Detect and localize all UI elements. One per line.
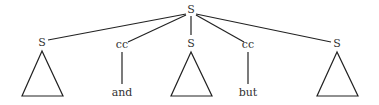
node-s3-label: S [333, 37, 341, 50]
triangle-s2 [171, 52, 212, 96]
root-node-label: S [187, 3, 195, 16]
syntax-tree: S S cc and S cc but S [0, 0, 379, 105]
node-s1-label: S [38, 36, 46, 49]
node-cc1-label: cc [116, 38, 128, 51]
triangle-s1 [22, 51, 63, 96]
node-s2-label: S [187, 37, 195, 50]
triangle-s3 [317, 52, 358, 96]
edge-root-s1 [48, 14, 186, 40]
terminal-but: but [239, 86, 258, 99]
terminal-and: and [112, 86, 133, 99]
node-cc2-label: cc [242, 38, 254, 51]
edge-root-s3 [196, 14, 331, 42]
